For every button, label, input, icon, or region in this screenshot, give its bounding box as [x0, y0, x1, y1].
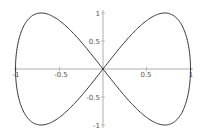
y-tick-label: 0.5 [89, 38, 100, 46]
y-tick-label: -0.5 [86, 94, 100, 102]
y-tick-label: -1 [93, 122, 100, 130]
x-tick-label: 1 [189, 71, 193, 79]
y-tick-label: 1 [96, 10, 100, 18]
x-tick-label: -0.5 [54, 71, 68, 79]
x-tick-label: 0.5 [140, 71, 151, 79]
figure-eight-chart: -1 -0.5 0.5 1 1 0.5 -0.5 -1 [0, 0, 203, 137]
